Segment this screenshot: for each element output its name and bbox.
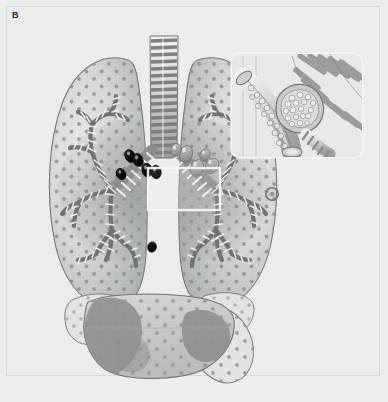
inset-cross-section (276, 84, 324, 132)
figure-panel-b: B (0, 0, 388, 402)
magnification-inset (232, 54, 364, 157)
anatomical-illustration (0, 0, 388, 402)
inset-tube-cut-end (282, 147, 302, 157)
inset-source-region (148, 168, 220, 210)
trachea (150, 36, 178, 158)
